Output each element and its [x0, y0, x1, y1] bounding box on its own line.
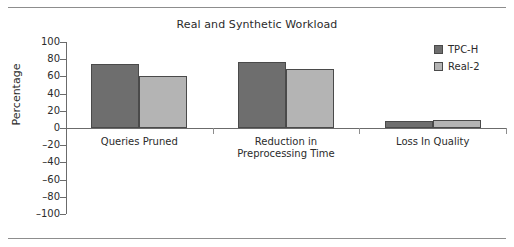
legend-swatch-icon [434, 62, 443, 71]
category-label: Loss In Quality [359, 136, 506, 148]
y-axis-tick-label: 60 [26, 71, 60, 81]
legend-label: Real-2 [448, 61, 480, 72]
y-axis-tick-labels: 100806040200–20–40–60–80–100 [26, 42, 60, 214]
bar-tpc-h-group-1 [91, 64, 139, 128]
y-axis-tick-label: 40 [26, 89, 60, 99]
y-axis-tick-label: –20 [26, 140, 60, 150]
category-label-line: Queries Pruned [66, 136, 213, 148]
y-axis-tick [60, 214, 66, 215]
y-axis-tick-label: –100 [26, 209, 60, 219]
legend-item-tpc-h[interactable]: TPC-H [434, 42, 480, 57]
y-axis-tick-label: 80 [26, 54, 60, 64]
bar-real-2-group-3 [433, 120, 481, 128]
bottom-divider-rule [8, 238, 506, 239]
bar-real-2-group-1 [139, 76, 187, 128]
category-separator-tick [506, 128, 507, 134]
category-label: Queries Pruned [66, 136, 213, 148]
bar-real-2-group-2 [286, 69, 334, 128]
legend-swatch-icon [434, 45, 443, 54]
category-separator-tick [213, 128, 214, 134]
y-axis-tick-label: –60 [26, 175, 60, 185]
category-separator-tick [359, 128, 360, 134]
y-axis-tick-label: –40 [26, 157, 60, 167]
y-axis-tick-label: –80 [26, 192, 60, 202]
category-label-line: Preprocessing Time [213, 148, 360, 160]
category-label-line: Reduction in [213, 136, 360, 148]
legend-label: TPC-H [448, 44, 478, 55]
y-axis-tick-label: 20 [26, 106, 60, 116]
category-label-line: Loss In Quality [359, 136, 506, 148]
y-axis-tick-label: 0 [26, 123, 60, 133]
y-axis-title: Percentage [10, 55, 23, 135]
top-divider-rule [8, 7, 506, 8]
y-axis-tick-label: 100 [26, 37, 60, 47]
bar-tpc-h-group-3 [385, 121, 433, 128]
legend-item-real-2[interactable]: Real-2 [434, 59, 480, 74]
chart-figure: Real and Synthetic Workload Percentage 1… [0, 0, 514, 247]
category-label: Reduction inPreprocessing Time [213, 136, 360, 160]
chart-title: Real and Synthetic Workload [0, 18, 514, 31]
chart-legend: TPC-HReal-2 [434, 42, 480, 76]
bar-tpc-h-group-2 [238, 62, 286, 128]
